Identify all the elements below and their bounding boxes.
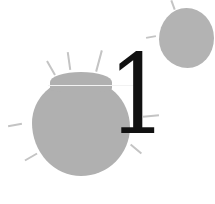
ink-splat-large-top (50, 72, 112, 92)
splatter-spike (24, 153, 37, 162)
splatter-spike (170, 0, 175, 10)
splatter-spike (46, 61, 56, 76)
splatter-spike (8, 123, 22, 127)
splatter-spike (67, 52, 71, 70)
splatter-spike (95, 50, 103, 72)
chapter-number: 1 (108, 40, 168, 150)
